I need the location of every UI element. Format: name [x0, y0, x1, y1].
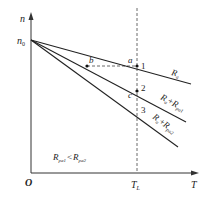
point-b-label: b — [89, 55, 94, 65]
point-2-label: 2 — [141, 83, 146, 93]
line-ra-rpa1 — [31, 40, 186, 122]
resistance-relation-note: Rpa1<Rpa2 — [52, 152, 87, 163]
point-a — [135, 64, 138, 67]
origin-label: O — [25, 177, 32, 188]
line-ra-rpa2 — [31, 40, 178, 147]
x-axis-arrow-icon — [191, 171, 199, 176]
tl-label: TL — [131, 179, 141, 191]
speed-torque-diagram: n n0 O TL T a b c 1 2 3 Ra Ra+Rpa1 Ra+Rp… — [0, 0, 210, 207]
y-axis-arrow-icon — [29, 12, 34, 20]
point-c-label: c — [128, 90, 132, 100]
point-3-label: 3 — [141, 105, 146, 115]
point-a-label: a — [128, 55, 133, 65]
line-ra-rpa1-label: Ra+Rpa1 — [158, 91, 187, 113]
point-1-label: 1 — [141, 61, 146, 71]
point-c — [135, 89, 138, 92]
x-axis-label: T — [191, 179, 198, 190]
line-ra-rpa2-label: Ra+Rpa2 — [149, 111, 178, 136]
line-ra — [31, 40, 191, 84]
y-axis-label: n — [20, 13, 25, 24]
n0-label: n0 — [17, 35, 25, 47]
